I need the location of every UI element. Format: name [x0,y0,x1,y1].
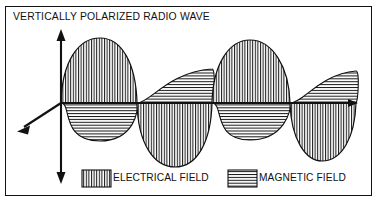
magnetic-lobe-3 [212,103,290,140]
depth-axis [17,103,61,135]
electrical-lobe-2 [137,103,212,167]
electrical-lobe-4 [290,103,356,161]
legend-swatch-magnetic [228,170,257,187]
radio-wave-figure: VERTICALLY POLARIZED RADIO WAVE ELECTRIC… [0,0,380,206]
legend-swatch-electrical [82,170,111,187]
magnetic-lobe-2 [137,69,214,103]
electrical-lobe-1 [61,38,137,103]
polarization-axis [57,29,66,184]
legend-label-electrical: ELECTRICAL FIELD [113,172,209,183]
figure-title: VERTICALLY POLARIZED RADIO WAVE [13,11,210,22]
legend-label-magnetic: MAGNETIC FIELD [259,172,346,183]
electrical-lobe-3 [212,40,290,103]
magnetic-lobe-4 [290,71,358,103]
magnetic-lobe-1 [61,103,137,141]
